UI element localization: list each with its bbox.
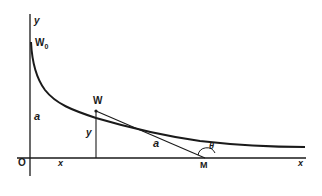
tractrix-curve [31,42,305,147]
tangent-line [96,111,205,158]
x-axis-label: x [297,158,304,168]
angle-theta-label: θ [209,141,214,151]
y-axis-label: y [33,15,40,26]
ordinate-y-label: y [85,127,92,138]
point-w [94,109,97,112]
start-point-label: W0 [35,37,48,50]
origin-label: O [18,157,26,168]
tangent-a-label: a [153,137,159,149]
point-w-label: W [93,95,103,106]
abscissa-x-label: x [57,158,64,168]
height-a-label: a [34,110,40,122]
foot-point-m-label: M [200,160,208,170]
tractrix-diagram: y W0 a W y O x a θ M x [0,0,322,196]
